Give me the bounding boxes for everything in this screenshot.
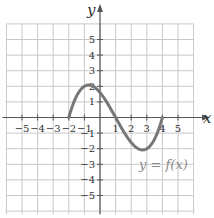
x-tick-label: −4 — [30, 123, 45, 134]
x-axis-label: x — [203, 109, 212, 127]
function-graph: −5−4−3−2−11234554321−1−2−3−4−5 x y y = f… — [0, 0, 214, 218]
x-tick-label: −5 — [15, 123, 30, 134]
y-tick-label: 3 — [89, 65, 95, 76]
x-tick-label: −3 — [46, 123, 61, 134]
x-tick-label: −2 — [61, 123, 76, 134]
x-tick-label: 3 — [144, 123, 150, 134]
y-tick-label: −4 — [80, 174, 95, 185]
x-tick-label: 5 — [175, 123, 181, 134]
y-tick-label: 4 — [89, 50, 95, 61]
axes — [2, 4, 210, 214]
y-axis-label: y — [86, 1, 96, 19]
function-label: y = f(x) — [138, 157, 188, 172]
x-tick-label: 2 — [128, 123, 134, 134]
y-tick-label: 5 — [89, 34, 95, 45]
y-tick-label: −3 — [80, 159, 95, 170]
y-tick-label: −5 — [80, 190, 95, 201]
y-tick-label: −2 — [80, 143, 95, 154]
y-tick-label: 1 — [89, 96, 95, 107]
y-tick-label: −1 — [80, 128, 95, 139]
